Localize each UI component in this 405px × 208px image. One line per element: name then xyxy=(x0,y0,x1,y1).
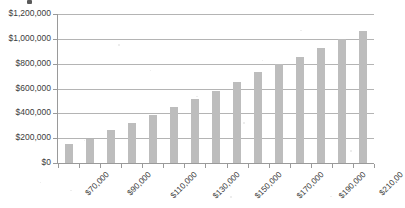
y-axis-tick-label: $200,000 xyxy=(16,133,51,142)
y-axis-labels: $1,200,000$1,000,000$800,000$600,000$400… xyxy=(0,0,51,208)
x-axis-tick xyxy=(269,164,270,168)
scan-speckle xyxy=(150,70,151,71)
scan-speckle xyxy=(262,60,263,61)
x-axis-tick-label: $190,000 xyxy=(337,170,368,201)
x-axis-tick xyxy=(58,164,59,168)
y-axis-tick xyxy=(53,64,58,65)
bar xyxy=(149,115,157,163)
scan-speckle xyxy=(243,122,245,124)
scan-speckle xyxy=(300,30,302,31)
bar xyxy=(296,57,304,163)
bar xyxy=(86,139,94,163)
plot-area xyxy=(58,14,374,163)
x-axis-tick xyxy=(100,164,101,168)
y-axis-tick-label: $1,000,000 xyxy=(8,34,51,43)
x-axis-tick-label: $150,000 xyxy=(253,170,284,201)
gridline xyxy=(58,64,374,65)
y-axis-tick xyxy=(53,138,58,139)
scan-speckle xyxy=(118,44,120,46)
x-axis-tick-label: $130,000 xyxy=(211,170,242,201)
gridline xyxy=(58,89,374,90)
scan-speckle xyxy=(230,196,232,198)
x-axis-tick xyxy=(121,164,122,168)
x-axis-tick-label: $70,000 xyxy=(83,170,110,197)
x-axis-line xyxy=(58,163,374,164)
y-axis-tick-label: $0 xyxy=(42,158,51,167)
bar xyxy=(65,144,73,163)
x-axis-tick-label: $90,000 xyxy=(125,170,152,197)
bar xyxy=(359,31,367,163)
y-axis-tick-label: $600,000 xyxy=(16,84,51,93)
y-axis-tick-label: $800,000 xyxy=(16,59,51,68)
x-axis-tick xyxy=(353,164,354,168)
x-axis-tick-label: $210,00 xyxy=(378,170,405,197)
x-axis-tick xyxy=(184,164,185,168)
y-axis-tick xyxy=(53,39,58,40)
bar xyxy=(254,72,262,163)
x-axis-tick xyxy=(311,164,312,168)
bar xyxy=(128,123,136,163)
gridline xyxy=(58,39,374,40)
bar xyxy=(212,91,220,163)
y-axis-tick-label: $400,000 xyxy=(16,108,51,117)
y-axis-tick xyxy=(53,89,58,90)
x-axis-tick xyxy=(227,164,228,168)
bar xyxy=(233,82,241,163)
y-axis-tick xyxy=(53,113,58,114)
scan-speckle xyxy=(84,140,85,141)
bar xyxy=(170,107,178,163)
bar xyxy=(275,64,283,163)
scan-speckle xyxy=(196,96,198,97)
x-axis-tick xyxy=(374,164,375,168)
x-axis-tick-label: $170,000 xyxy=(295,170,326,201)
y-axis-tick-label: $1,200,000 xyxy=(8,9,51,18)
bar xyxy=(317,48,325,163)
gridline xyxy=(58,14,374,15)
bar xyxy=(338,39,346,163)
scan-speckle xyxy=(70,190,72,191)
x-axis-tick xyxy=(290,164,291,168)
y-axis-tick xyxy=(53,14,58,15)
scan-speckle xyxy=(330,196,332,197)
bar xyxy=(191,99,199,163)
x-axis-tick xyxy=(79,164,80,168)
x-axis-tick xyxy=(248,164,249,168)
x-axis-tick xyxy=(205,164,206,168)
bar xyxy=(107,130,115,163)
scan-speckle xyxy=(40,182,41,183)
x-axis-tick xyxy=(332,164,333,168)
x-axis-tick-label: $110,000 xyxy=(169,170,199,200)
scan-speckle xyxy=(350,150,352,152)
x-axis-tick xyxy=(163,164,164,168)
x-axis-tick xyxy=(142,164,143,168)
